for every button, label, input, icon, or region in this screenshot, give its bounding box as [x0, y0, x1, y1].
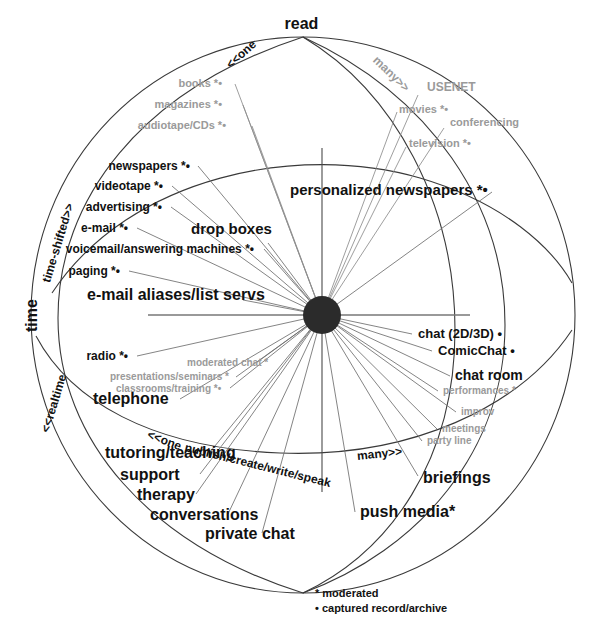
medium-label-audiotape-cds: audiotape/CDs *•	[0, 120, 226, 131]
sphere-wireframe	[0, 0, 603, 640]
medium-label-advertising: advertising *•	[0, 201, 162, 213]
medium-label-personalized-newspapers: personalized newspapers *•	[290, 182, 488, 197]
medium-label-telephone: telephone	[93, 391, 169, 407]
spoke-usenet	[322, 95, 418, 315]
center-hub	[303, 296, 341, 334]
medium-label-private-chat: private chat	[205, 526, 295, 542]
medium-label-meetings: meetings	[442, 424, 486, 434]
medium-label-improv: improv	[461, 407, 494, 417]
spoke-movies	[322, 112, 397, 315]
diagram-canvas: readbooks *•magazines *•audiotape/CDs *•…	[0, 0, 603, 640]
spoke-privatechat	[262, 315, 322, 533]
legend-line-moderated: * moderated	[315, 586, 447, 601]
medium-label-books: books *•	[0, 78, 222, 89]
medium-label-conversations: conversations	[150, 507, 258, 523]
medium-label-performances: performances *	[443, 386, 516, 396]
medium-label-support: support	[120, 467, 180, 483]
medium-label-therapy: therapy	[137, 487, 195, 503]
medium-label-read: read	[0, 16, 603, 32]
medium-label-movies: movies *•	[399, 104, 448, 115]
medium-label-videotape: videotape *•	[0, 180, 163, 192]
medium-label-e-mail-aliases-list-servs: e-mail aliases/list servs	[87, 287, 265, 303]
medium-label-briefings: briefings	[423, 470, 491, 486]
medium-label-paging: paging *•	[0, 265, 120, 277]
spoke-personalized	[322, 192, 492, 315]
medium-label-chat-room: chat room	[455, 368, 523, 382]
spoke-chatroom	[322, 315, 450, 376]
legend: * moderated • captured record/archive	[315, 586, 447, 616]
medium-label-party-line: party line	[427, 436, 471, 446]
spoke-television	[322, 147, 406, 315]
medium-label-moderated-chat: moderated chat *	[187, 358, 268, 368]
medium-label-chat-2d-3d: chat (2D/3D) •	[418, 327, 502, 340]
medium-label-newspapers: newspapers *•	[0, 160, 190, 172]
medium-label-radio: radio *•	[0, 350, 128, 362]
spoke-conferencing	[322, 128, 444, 315]
spoke-partyline	[322, 315, 422, 441]
medium-label-presentations-seminars: presentations/seminars *	[110, 372, 229, 382]
medium-label-drop-boxes: drop boxes	[191, 221, 272, 236]
medium-label-comicchat: ComicChat •	[438, 344, 515, 357]
legend-line-captured: • captured record/archive	[315, 601, 447, 616]
medium-label-magazines: magazines *•	[0, 99, 222, 110]
medium-label-conferencing: conferencing	[450, 117, 519, 128]
axis-label-time: time	[24, 299, 40, 332]
medium-label-television: television *•	[409, 138, 471, 149]
spoke-tutoring	[210, 315, 322, 452]
medium-label-voicemail-answering-machines: voicemail/answering machines *•	[0, 243, 254, 255]
medium-label-usenet: USENET	[427, 81, 476, 93]
spoke-bundle	[235, 84, 444, 315]
medium-label-push-media: push media*	[360, 504, 455, 520]
